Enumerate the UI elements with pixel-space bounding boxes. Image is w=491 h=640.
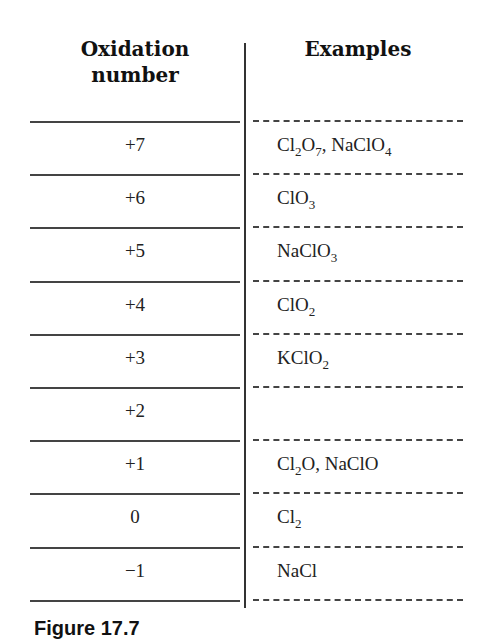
row-rule-dashed: [253, 120, 463, 122]
oxidation-number: +5: [30, 240, 240, 262]
row-rule: [30, 281, 240, 283]
row-rule-dashed: [253, 173, 463, 175]
row-rule: [30, 121, 240, 123]
row-rule-dashed: [253, 280, 463, 282]
row-rule: [30, 440, 240, 442]
oxidation-number: +3: [30, 347, 240, 369]
row-rule: [30, 387, 240, 389]
oxidation-number: +7: [30, 134, 240, 156]
column-divider: [244, 43, 246, 608]
row-rule: [30, 600, 240, 602]
header-line-1: Oxidation: [30, 36, 240, 62]
row-rule-dashed: [253, 439, 463, 441]
header-line-2: number: [30, 62, 240, 88]
row-rule: [30, 174, 240, 176]
example-compounds: ClO2: [277, 294, 315, 320]
table-header-oxidation: Oxidation number: [30, 36, 240, 88]
row-rule: [30, 493, 240, 495]
row-rule-dashed: [253, 386, 463, 388]
oxidation-number: −1: [30, 560, 240, 582]
row-rule: [30, 227, 240, 229]
example-compounds: KClO2: [277, 347, 329, 373]
row-rule: [30, 547, 240, 549]
oxidation-number: +1: [30, 453, 240, 475]
example-compounds: NaClO3: [277, 240, 337, 266]
example-compounds: Cl2O7, NaClO4: [277, 134, 392, 160]
example-compounds: NaCl: [277, 560, 317, 582]
row-rule-dashed: [253, 226, 463, 228]
row-rule: [30, 334, 240, 336]
oxidation-number: +4: [30, 294, 240, 316]
example-compounds: ClO3: [277, 187, 315, 213]
table-header-examples: Examples: [253, 36, 463, 62]
row-rule-dashed: [253, 546, 463, 548]
row-rule-dashed: [253, 492, 463, 494]
row-rule-dashed: [253, 599, 463, 601]
figure-caption: Figure 17.7: [34, 617, 140, 640]
oxidation-number: +6: [30, 187, 240, 209]
oxidation-number: 0: [30, 506, 240, 528]
example-compounds: Cl2: [277, 506, 301, 532]
example-compounds: Cl2O, NaClO: [277, 453, 379, 479]
oxidation-number: +2: [30, 400, 240, 422]
row-rule-dashed: [253, 333, 463, 335]
